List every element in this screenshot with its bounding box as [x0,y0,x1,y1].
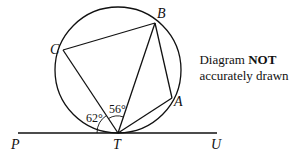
chord-CB [63,23,155,50]
note-suffix: accurately drawn [199,68,288,83]
label-T: T [113,137,122,152]
chord-BT [118,23,155,133]
angle-arc-56 [109,116,124,119]
label-B: B [157,6,166,21]
label-A: A [173,94,183,109]
accuracy-note: Diagram NOT accurately drawn [199,52,288,84]
label-U: U [211,137,222,152]
label-C: C [50,42,60,57]
angle-label-56: 56° [109,102,126,116]
angle-label-62: 62° [86,111,103,125]
label-P: P [10,137,20,152]
note-emphasis: NOT [248,52,276,67]
note-prefix: Diagram [199,52,248,67]
chord-AT [118,98,172,133]
